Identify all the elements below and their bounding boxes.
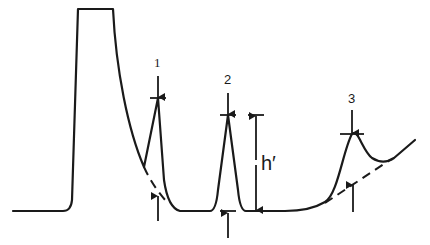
baseline-extrapolation-3 [325, 160, 390, 203]
solvent-peak-trace [13, 9, 415, 211]
chromatogram-diagram [0, 0, 430, 245]
peak-label-1: 1 [154, 56, 161, 69]
peak-label-3: 3 [348, 92, 355, 105]
h-prime-label: h′ [261, 153, 276, 173]
peak-label-2: 2 [224, 73, 231, 86]
